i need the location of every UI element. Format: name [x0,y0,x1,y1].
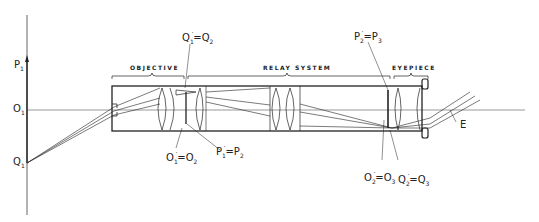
objective-lenses [158,88,174,130]
label-q2p-eq-q3: Q2′=Q3 [398,175,429,189]
objective-bracket [112,73,184,79]
label-leaders [176,42,456,160]
label-o2p-eq-o3: O2′=O3 [364,173,395,187]
eyecup-bottom [422,128,428,138]
label-q1: Q1 [13,157,25,171]
label-p1: P1 [14,60,24,74]
relay-system-bracket [188,73,390,79]
eyepiece-label: EYEPIECE [392,63,436,73]
eyepiece-bracket [394,73,428,79]
objective-label: OBJECTIVE [130,63,179,73]
relay-rays [206,88,392,128]
label-o1-eq-o2: O1′=O2 [166,153,197,167]
eyecup-top [422,79,428,89]
optical-system-diagram [0,0,539,222]
label-o1: O1 [13,104,25,118]
field-lens [196,88,203,130]
telescope-tube [112,86,422,131]
label-p1p-eq-p2: P1′=P2 [216,147,244,161]
relay-lenses [270,86,300,131]
incoming-rays [27,88,160,163]
label-p2p-eq-p3: P2′=P3 [354,32,382,46]
relay-system-label: RELAY SYSTEM [263,63,331,73]
label-exit-pupil-e: E [460,120,466,130]
label-q1p-eq-q2: Q1′=Q2 [182,33,213,47]
